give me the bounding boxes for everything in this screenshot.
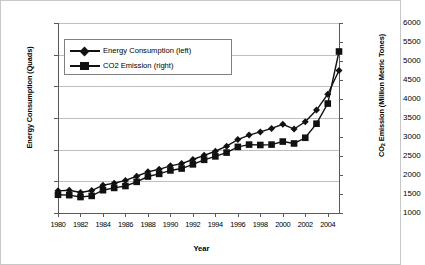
- y-axis-right-tick-label: 4000: [403, 94, 425, 103]
- y-axis-right-title-prefix: CO: [377, 146, 386, 157]
- legend-item-energy-consumption: Energy Consumption (left): [70, 43, 226, 58]
- y-axis-left-title: Energy Consumption (Quads): [25, 18, 34, 178]
- square-marker-icon: [70, 61, 100, 71]
- data-point-diamond-marker: [336, 67, 343, 74]
- data-point-square-marker: [302, 134, 309, 141]
- data-point-square-marker: [145, 173, 152, 180]
- legend-label-energy-consumption: Energy Consumption (left): [100, 46, 191, 55]
- data-point-square-marker: [212, 153, 219, 160]
- y-axis-right-tick-label: 2500: [403, 151, 425, 160]
- data-point-square-marker: [246, 141, 253, 148]
- y-axis-right-tick-label: 3500: [403, 113, 425, 122]
- y-axis-right-tick-label: 3000: [403, 132, 425, 141]
- data-point-square-marker: [133, 179, 140, 186]
- data-point-square-marker: [77, 194, 84, 201]
- data-point-square-marker: [66, 192, 73, 199]
- y-axis-right-tick-label: 4500: [403, 75, 425, 84]
- data-point-square-marker: [201, 157, 208, 164]
- y-axis-right-title-suffix: Emission (Million Metric Tones): [377, 34, 386, 143]
- data-point-square-marker: [235, 144, 242, 151]
- data-point-square-marker: [55, 191, 62, 198]
- data-point-square-marker: [111, 185, 118, 192]
- diamond-marker-icon: [70, 46, 100, 56]
- data-point-square-marker: [122, 183, 129, 190]
- x-axis-tick-label: 2004: [308, 220, 348, 229]
- data-point-square-marker: [178, 165, 185, 172]
- data-point-diamond-marker: [257, 128, 264, 135]
- data-point-diamond-marker: [279, 121, 286, 128]
- data-point-square-marker: [257, 142, 264, 149]
- data-point-square-marker: [280, 138, 287, 145]
- y-axis-right-tick-label: 5000: [403, 56, 425, 65]
- data-point-square-marker: [324, 100, 331, 107]
- y-axis-right-tick-label: 1000: [403, 208, 425, 217]
- data-point-square-marker: [313, 120, 320, 127]
- y-axis-right-tick-label: 6000: [403, 18, 425, 27]
- series-line-energy-consumption: [58, 71, 339, 193]
- y-axis-right-tick-label: 2000: [403, 170, 425, 179]
- data-point-diamond-marker: [291, 126, 298, 133]
- data-point-diamond-marker: [268, 125, 275, 132]
- data-point-diamond-marker: [246, 132, 253, 139]
- data-point-square-marker: [336, 48, 343, 55]
- data-point-square-marker: [156, 171, 163, 178]
- legend-label-co2-emission: CO2 Emission (right): [100, 61, 173, 70]
- x-axis-title: Year: [1, 244, 402, 253]
- legend-item-co2-emission: CO2 Emission (right): [70, 58, 226, 73]
- data-point-square-marker: [167, 167, 174, 174]
- data-point-square-marker: [88, 193, 95, 200]
- y-axis-right-tick-label: 5500: [403, 37, 425, 46]
- y-axis-right-title-subscript: 2: [380, 143, 386, 146]
- y-axis-right-tick-label: 1500: [403, 189, 425, 198]
- chart-legend: Energy Consumption (left) CO2 Emission (…: [64, 39, 232, 75]
- y-axis-right-title: CO2 Emission (Million Metric Tones): [377, 11, 386, 181]
- data-point-square-marker: [100, 187, 107, 194]
- x-axis-line: [58, 213, 340, 214]
- data-point-diamond-marker: [223, 143, 230, 150]
- data-point-diamond-marker: [234, 136, 241, 143]
- data-point-square-marker: [223, 149, 230, 156]
- data-point-square-marker: [291, 140, 298, 147]
- data-point-square-marker: [190, 161, 197, 168]
- data-point-square-marker: [268, 141, 275, 148]
